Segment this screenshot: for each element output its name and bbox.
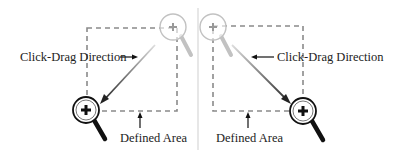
- diagram-graphics: [0, 0, 395, 161]
- left-area-arrow-icon: [138, 112, 143, 118]
- left-faint-magnifier-icon: [160, 14, 191, 55]
- right-faint-magnifier-icon: [200, 14, 231, 55]
- left-dark-magnifier-icon: [73, 97, 105, 139]
- right-area-arrow-icon: [246, 112, 251, 118]
- right-direction-label: Click-Drag Direction: [277, 50, 384, 64]
- right-label-arrow-icon: [251, 55, 257, 60]
- zoom-drag-diagram: Click-Drag Direction Defined Area Click-…: [0, 0, 395, 161]
- right-dark-magnifier-icon: [290, 98, 323, 140]
- left-label-arrow-icon: [132, 55, 138, 60]
- left-area-label: Defined Area: [120, 131, 187, 145]
- right-area-label: Defined Area: [216, 131, 283, 145]
- right-defined-area-rect: [213, 26, 303, 111]
- left-direction-label: Click-Drag Direction: [20, 50, 127, 64]
